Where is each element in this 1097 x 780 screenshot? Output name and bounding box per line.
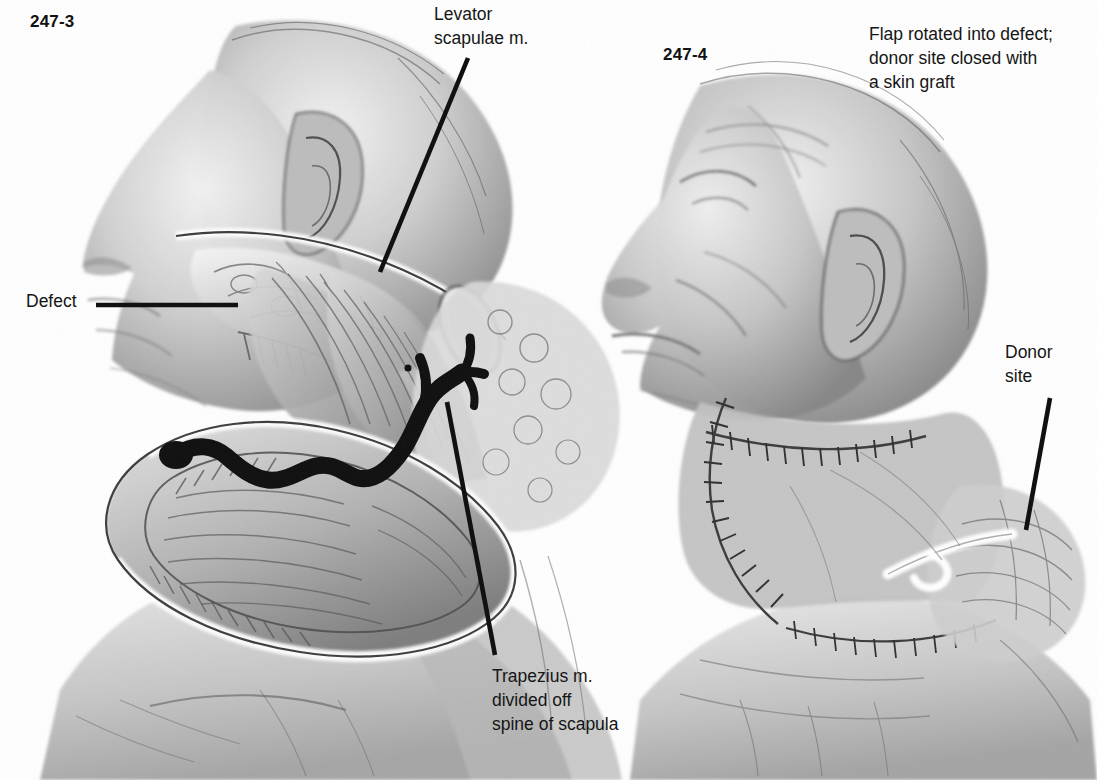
- label-trapezius-divided: Trapezius m. divided off spine of scapul…: [492, 664, 618, 736]
- label-donor-site: Donor site: [1005, 340, 1053, 388]
- illustration-page: 247-3 247-4 Levator scapulae m. Defect T…: [0, 0, 1097, 780]
- medical-illustration: [0, 0, 1097, 780]
- figure-number-247-3: 247-3: [30, 12, 74, 32]
- caption-flap-rotated: Flap rotated into defect; donor site clo…: [869, 22, 1053, 94]
- label-defect: Defect: [26, 289, 77, 313]
- figure-number-247-4: 247-4: [663, 45, 707, 65]
- label-levator-scapulae: Levator scapulae m.: [434, 2, 528, 50]
